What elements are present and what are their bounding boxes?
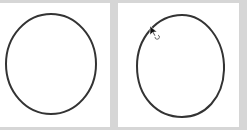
canvas-drawing	[0, 0, 247, 130]
pointer-with-rotate-icon	[150, 26, 159, 39]
ellipse-shape[interactable]	[6, 14, 96, 114]
